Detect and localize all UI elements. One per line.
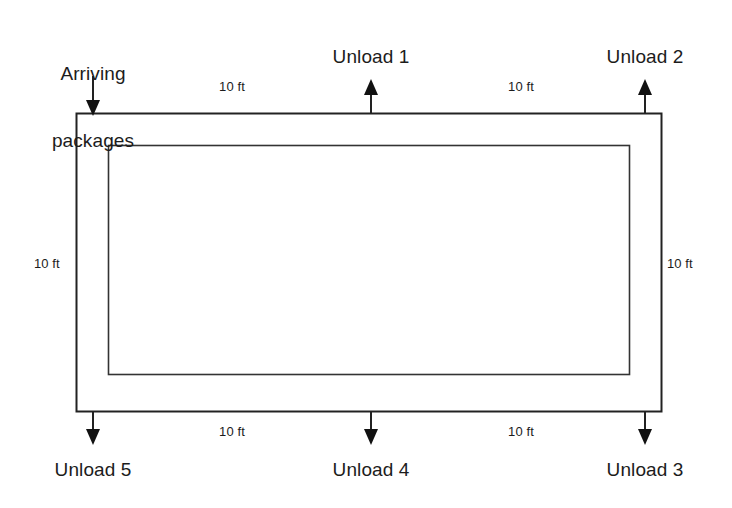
unload-1-arrow-icon [364,79,378,113]
dimension-label-right: 10 ft [667,256,693,271]
dimension-label-top-right: 10 ft [508,79,534,94]
station-label-unload-4: Unload 4 [333,459,410,481]
dimension-label-left: 10 ft [34,256,60,271]
arriving-packages-label: Arriving packages [52,18,134,197]
outer-conveyor-loop [77,114,662,412]
unload-4-arrow-icon [364,412,378,445]
arriving-packages-label-line1: Arriving [52,63,134,85]
inner-conveyor-loop [109,146,630,375]
unload-3-arrow-icon [638,412,652,445]
station-label-unload-5: Unload 5 [55,459,132,481]
station-label-unload-1: Unload 1 [333,46,410,68]
dimension-label-bottom-left: 10 ft [219,424,245,439]
arriving-packages-label-line2: packages [52,130,134,152]
unload-2-arrow-icon [638,79,652,113]
dimension-label-top-left: 10 ft [219,79,245,94]
unload-5-arrow-icon [86,412,100,445]
station-label-unload-2: Unload 2 [607,46,684,68]
dimension-label-bottom-right: 10 ft [508,424,534,439]
station-label-unload-3: Unload 3 [607,459,684,481]
conveyor-loop-diagram: Arriving packages Unload 1 Unload 2 Unlo… [0,0,732,508]
